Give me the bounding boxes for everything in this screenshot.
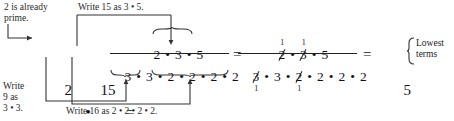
- factor: 3: [274, 69, 281, 84]
- annotation-write-9-line3: 3 • 3.: [3, 103, 23, 114]
- annotation-prime-note-line1: 2 is already: [4, 2, 48, 13]
- annotation-prime-note-line2: prime.: [4, 13, 29, 24]
- cancel-mark: 1: [254, 85, 258, 93]
- arrow-prime-to-two: [6, 24, 42, 46]
- annotation-write-9-line1: Write: [3, 81, 24, 92]
- cancelled-factor-2: 21: [295, 70, 302, 84]
- cancelled-factor-3: 31: [253, 70, 260, 84]
- dot: •: [329, 69, 334, 84]
- factor: 2: [360, 69, 367, 84]
- annotation-write-9-line2: 9 as: [3, 92, 18, 103]
- factor: 2: [232, 69, 239, 84]
- fraction-bar-step3: [238, 53, 357, 54]
- step3-denominator: 31•3•21•2•2•2: [239, 56, 367, 98]
- fraction-bar-step2: [110, 53, 229, 54]
- factor: 2: [317, 69, 324, 84]
- equals-sign-3: =: [363, 47, 371, 62]
- connector-write16: [70, 57, 192, 107]
- factor: 2: [338, 69, 345, 84]
- dot: •: [264, 69, 269, 84]
- dot: •: [286, 69, 291, 84]
- cancel-mark: 1: [297, 85, 301, 93]
- annotation-write-16: Write 16 as 2 • 2 • 2 • 2.: [66, 106, 157, 117]
- dot: •: [307, 69, 312, 84]
- math-worked-example: 2 is already prime. Write 15 as 3 • 5. 2…: [0, 0, 454, 121]
- label-lowest-terms-line1: Lowest: [416, 38, 444, 49]
- label-lowest-terms-line2: terms: [416, 49, 437, 60]
- dot: •: [350, 69, 355, 84]
- fraction-numerator: 5: [396, 83, 419, 98]
- cancel-mark: 1: [280, 39, 284, 47]
- right-brace-lowest-terms: [407, 37, 416, 65]
- annotation-write-15: Write 15 as 3 • 5.: [78, 2, 144, 13]
- cancel-mark: 1: [302, 39, 306, 47]
